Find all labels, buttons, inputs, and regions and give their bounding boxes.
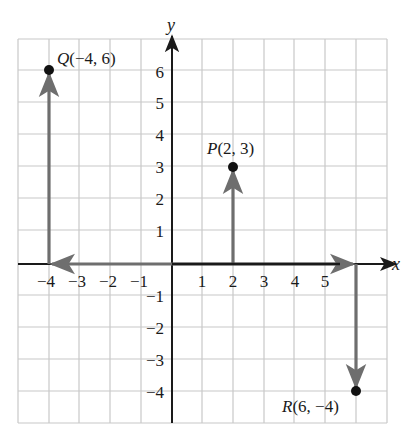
y-axis-label: y	[165, 15, 175, 35]
x-axis-label: x	[391, 254, 400, 274]
svg-text:6: 6	[156, 63, 165, 82]
point-Q	[44, 65, 54, 75]
svg-text:5: 5	[156, 94, 165, 113]
label-P: P(2, 3)	[206, 139, 254, 158]
x-tick-labels: −4 −3 −2 −1 1 2 3 4 5	[37, 272, 329, 291]
svg-text:−2: −2	[99, 272, 117, 291]
grid	[18, 39, 387, 423]
svg-text:4: 4	[291, 272, 300, 291]
svg-text:−4: −4	[37, 272, 56, 291]
svg-text:−3: −3	[68, 272, 86, 291]
svg-text:1: 1	[156, 222, 165, 241]
label-Q: Q(−4, 6)	[57, 49, 116, 68]
svg-text:−4: −4	[146, 383, 165, 402]
y-tick-labels: 6 5 4 3 2 1 −1 −2 −3 −4	[146, 63, 165, 402]
svg-text:5: 5	[321, 272, 330, 291]
label-R: R(6, −4)	[281, 397, 339, 416]
coordinate-plane-figure: Q(−4, 6) P(2, 3) R(6, −4) y x −4 −3 −2 −…	[0, 0, 420, 440]
coordinate-plane: Q(−4, 6) P(2, 3) R(6, −4) y x −4 −3 −2 −…	[0, 0, 420, 440]
svg-text:−3: −3	[146, 351, 164, 370]
svg-text:4: 4	[156, 126, 165, 145]
point-R	[351, 386, 361, 396]
svg-text:1: 1	[198, 272, 207, 291]
svg-text:3: 3	[156, 158, 165, 177]
svg-text:2: 2	[229, 272, 238, 291]
svg-text:−1: −1	[146, 287, 164, 306]
point-P	[228, 162, 238, 172]
svg-text:2: 2	[156, 190, 165, 209]
svg-text:3: 3	[260, 272, 269, 291]
svg-text:−2: −2	[146, 319, 164, 338]
